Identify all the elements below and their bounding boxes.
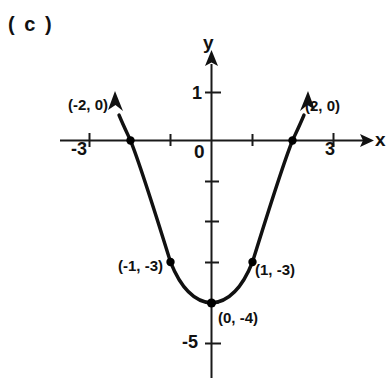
y-axis-label: y xyxy=(203,33,214,52)
data-point-marker xyxy=(126,136,134,144)
x-tick-label-3: 3 xyxy=(325,140,335,158)
point-label-0-minus4: (0, -4) xyxy=(218,310,258,325)
point-label-2-0: (2, 0) xyxy=(305,98,340,113)
data-point-marker xyxy=(166,258,174,266)
point-label-minus1-minus3: (-1, -3) xyxy=(118,258,163,273)
data-point-marker xyxy=(288,136,296,144)
panel-label: ( c ) xyxy=(8,14,54,34)
origin-label: 0 xyxy=(194,142,205,161)
x-tick-label-minus3: -3 xyxy=(71,140,87,158)
point-label-1-minus3: (1, -3) xyxy=(255,262,295,277)
graph-figure: ( c ) y x 1 -5 0 -3 3 (-2, 0) (-1, -3) (… xyxy=(0,0,392,378)
y-tick-label-1: 1 xyxy=(192,84,202,102)
curve-arrowhead-left xyxy=(108,91,123,111)
y-tick-label-minus5: -5 xyxy=(182,333,198,351)
parabola-plot xyxy=(0,0,392,378)
x-axis-label: x xyxy=(375,130,386,149)
data-point-marker xyxy=(207,298,216,307)
point-label-minus2-0: (-2, 0) xyxy=(68,97,108,112)
